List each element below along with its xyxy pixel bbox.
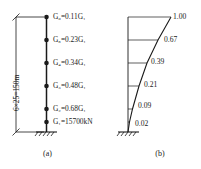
mode-value-1: 0.02 [135,120,148,128]
fixed-support [117,132,139,136]
storey-label-g3: G₃=0.48G₁ [53,82,86,89]
storey-label-g1: G₁=15700kN [53,118,93,125]
panel-b-mode-shape: 1.00 0.67 0.39 0.21 0.09 0.02 (b) [110,0,201,169]
caption-b: (b) [130,150,190,158]
panel-a-lumped-mass-model: 6×25=150m G₆=0.11G₁ G₅=0.23G₁ G₄=0.34G₁ … [0,0,110,169]
storey-label-g2: G₂=0.68G₁ [53,105,86,112]
storey-label-g6: G₆=0.11G₁ [53,13,86,20]
mode-value-3: 0.21 [144,81,157,89]
caption-a: (a) [0,150,95,158]
figure-container: 6×25=150m G₆=0.11G₁ G₅=0.23G₁ G₄=0.34G₁ … [0,0,201,169]
mass-node-5 [44,38,49,43]
mode-value-4: 0.39 [151,58,164,66]
storey-label-g5: G₅=0.23G₁ [53,36,86,43]
mass-node-1 [44,120,49,125]
mass-node-6 [44,15,49,20]
mode-value-5: 0.67 [164,36,177,44]
mass-node-4 [44,61,49,66]
dimension-label: 6×25=150m [13,75,20,111]
mass-node-2 [44,107,49,112]
mode-value-2: 0.09 [138,102,151,110]
storey-label-g4: G₄=0.34G₁ [53,59,86,66]
mass-node-3 [44,84,49,89]
mode-value-6: 1.00 [173,13,186,21]
fixed-support [35,132,57,136]
